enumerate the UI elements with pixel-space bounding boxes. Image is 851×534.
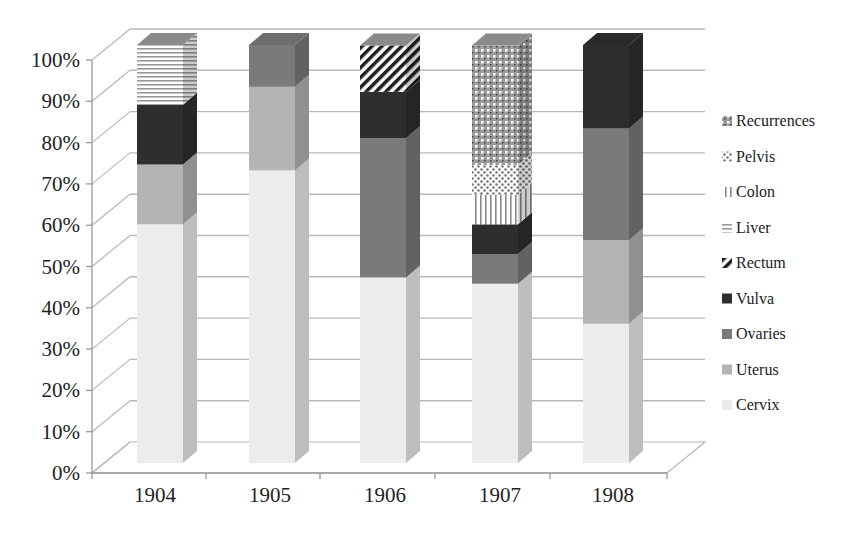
y-tick-label: 10% [42, 420, 81, 444]
y-tick-label: 50% [42, 255, 81, 279]
bar-segment-vulva [360, 92, 406, 138]
y-tick-label: 0% [52, 461, 80, 485]
legend-item-liver: Liver [722, 219, 771, 236]
bar-segment-ovaries [360, 138, 406, 277]
bar-side [629, 33, 643, 129]
bar-1904 [137, 33, 197, 463]
legend-item-ovaries: Ovaries [722, 325, 786, 342]
side-gridline [92, 112, 130, 143]
side-gridline [92, 70, 130, 101]
bar-segment-uterus [137, 165, 183, 225]
bar-segment-pelvis [472, 165, 518, 195]
checker-swatch-icon [722, 116, 732, 126]
legend-label: Recurrences [736, 112, 815, 129]
solid-swatch-icon [722, 294, 732, 304]
stacked-bar-chart-3d: 0%10%20%30%40%50%60%70%80%90%100% 190419… [0, 0, 851, 534]
legend-label: Vulva [736, 290, 774, 307]
legend-item-vulva: Vulva [722, 290, 774, 307]
diagonal-lines-swatch-icon [722, 258, 732, 268]
bar-segment-recurrences [472, 45, 518, 165]
legend-item-uterus: Uterus [722, 361, 779, 378]
y-axis: 0%10%20%30%40%50%60%70%80%90%100% [31, 48, 92, 485]
x-tick-label: 1908 [592, 483, 634, 507]
bar-segment-vulva [137, 105, 183, 165]
x-tick-label: 1905 [249, 483, 291, 507]
side-gridline [92, 359, 130, 390]
bar-side [629, 228, 643, 324]
y-tick-label: 40% [42, 296, 81, 320]
legend-label: Ovaries [736, 325, 786, 342]
bar-segment-colon [472, 195, 518, 225]
x-tick-label: 1907 [479, 483, 521, 507]
bar-segment-liver [137, 45, 183, 105]
y-tick-label: 70% [42, 172, 81, 196]
y-tick-label: 100% [31, 48, 80, 72]
bar-segment-uterus [583, 240, 629, 324]
solid-swatch-icon [722, 365, 732, 375]
solid-swatch-icon [722, 329, 732, 339]
bar-segment-ovaries [472, 254, 518, 284]
side-gridline [92, 153, 130, 184]
legend-label: Colon [736, 183, 775, 200]
bar-side [406, 126, 420, 277]
legend-label: Cervix [736, 396, 780, 413]
bar-segment-uterus [249, 87, 295, 171]
y-tick-label: 80% [42, 131, 81, 155]
bar-side [295, 158, 309, 463]
legend-label: Rectum [736, 254, 786, 271]
bar-side [295, 75, 309, 171]
bar-side [518, 272, 532, 463]
x-tick-label: 1904 [134, 483, 177, 507]
side-gridline [92, 318, 130, 349]
bar-segment-ovaries [249, 45, 295, 87]
legend-item-colon: Colon [722, 183, 775, 200]
bar-segment-ovaries [583, 129, 629, 241]
vertical-lines-swatch-icon [722, 187, 732, 197]
side-gridline [92, 29, 130, 60]
legend-item-rectum: Rectum [722, 254, 786, 271]
legend-item-recurrences: Recurrences [722, 112, 815, 129]
bar-side [629, 117, 643, 241]
bar-segment-cervix [360, 277, 406, 463]
legend-label: Uterus [736, 361, 779, 378]
y-tick-label: 60% [42, 213, 81, 237]
horizontal-lines-swatch-icon [722, 223, 732, 233]
bar-side [183, 153, 197, 225]
bar-1907 [472, 33, 532, 463]
legend-label: Pelvis [736, 148, 775, 165]
legend: RecurrencesPelvisColonLiverRectumVulvaOv… [722, 112, 815, 413]
side-gridline [92, 277, 130, 308]
side-gridline [92, 194, 130, 225]
y-tick-label: 20% [42, 378, 81, 402]
side-gridline [92, 401, 130, 432]
bar-side [406, 265, 420, 463]
y-tick-label: 30% [42, 337, 81, 361]
solid-swatch-icon [722, 400, 732, 410]
bar-1905 [249, 33, 309, 463]
bar-side [629, 312, 643, 463]
bars [137, 33, 643, 463]
bar-segment-cervix [137, 224, 183, 463]
bar-segment-vulva [583, 45, 629, 129]
bar-segment-cervix [249, 170, 295, 463]
legend-item-pelvis: Pelvis [722, 148, 775, 165]
y-tick-label: 90% [42, 89, 81, 113]
bar-segment-vulva [472, 224, 518, 254]
x-tick-label: 1906 [364, 483, 406, 507]
bar-segment-cervix [583, 324, 629, 463]
bar-1908 [583, 33, 643, 463]
dots-swatch-icon [722, 152, 732, 162]
x-axis: 19041905190619071908 [92, 473, 667, 507]
bar-segment-cervix [472, 284, 518, 463]
bar-side [183, 93, 197, 165]
legend-item-cervix: Cervix [722, 396, 780, 413]
bar-1906 [360, 33, 420, 463]
bar-side [183, 212, 197, 463]
bar-segment-rectum [360, 45, 406, 91]
legend-label: Liver [736, 219, 771, 236]
side-gridline [92, 236, 130, 267]
